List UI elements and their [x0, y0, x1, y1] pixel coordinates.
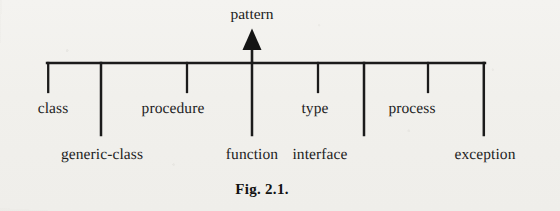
node-label-generic-class: generic-class — [61, 147, 143, 163]
root-node-label: pattern — [230, 6, 273, 22]
node-label-procedure: procedure — [142, 101, 205, 117]
node-label-process: process — [388, 101, 435, 117]
tree-diagram-svg — [0, 0, 560, 211]
root-arrowhead-icon — [243, 29, 262, 51]
figure-caption: Fig. 2.1. — [235, 181, 289, 198]
node-label-interface: interface — [292, 147, 347, 163]
root-arrow — [243, 29, 262, 64]
node-label-class: class — [38, 101, 69, 117]
node-label-type: type — [301, 101, 328, 117]
node-label-function: function — [226, 147, 278, 163]
figure-2-1: pattern class generic-class procedure fu… — [0, 0, 560, 211]
tree-connectors — [47, 63, 485, 135]
node-label-exception: exception — [454, 147, 515, 163]
